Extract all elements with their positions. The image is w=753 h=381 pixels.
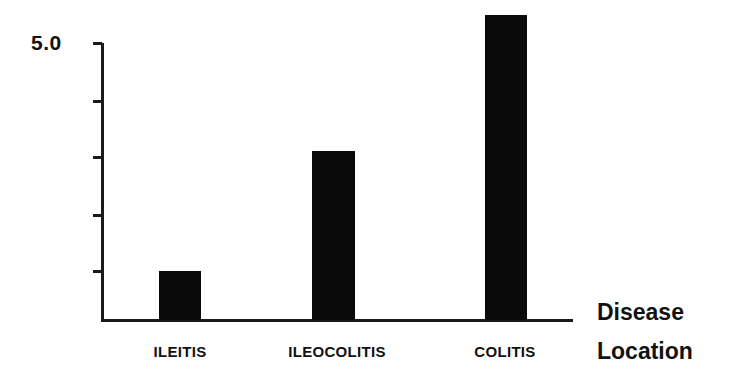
- x-tick-label-ileocolitis: ILEOCOLITIS: [288, 343, 385, 360]
- y-tick-4: [93, 100, 102, 103]
- y-axis-max-label: 5.0: [31, 31, 62, 55]
- y-axis: [101, 43, 104, 322]
- y-tick-1: [93, 270, 102, 273]
- bar-colitis: [485, 15, 527, 321]
- x-axis-title-line2: Location: [597, 340, 693, 363]
- bar-ileitis: [159, 271, 201, 320]
- y-tick-5: [93, 42, 102, 45]
- x-tick-label-ileitis: ILEITIS: [154, 343, 207, 360]
- y-tick-2: [93, 214, 102, 217]
- bar-chart: 5.0 ILEITIS ILEOCOLITIS COLITIS Disease …: [0, 0, 753, 381]
- y-tick-3: [93, 156, 102, 159]
- x-tick-label-colitis: COLITIS: [474, 343, 535, 360]
- bar-ileocolitis: [312, 151, 355, 320]
- x-axis-title-line1: Disease: [597, 301, 684, 324]
